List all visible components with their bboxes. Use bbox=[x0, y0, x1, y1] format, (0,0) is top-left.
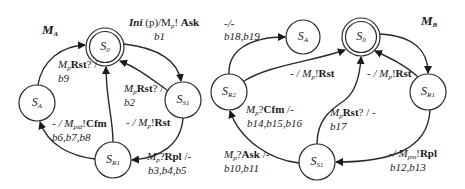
transition-label-mb-sr2-sa: -/- bbox=[224, 17, 234, 29]
state-label-mb-ss1: SS1 bbox=[299, 154, 335, 168]
state-label-mb-sa: SA bbox=[285, 29, 321, 43]
title-main: M bbox=[42, 22, 54, 37]
machine-title-ma: MA bbox=[42, 22, 58, 38]
transition-label-ma-sr1-sa: - / Mpid!Cfm bbox=[52, 117, 107, 129]
state-label-ma-s0: S0 bbox=[87, 39, 123, 53]
transition-label-ma-ss1-sr1-b: b3,b4,b5 bbox=[148, 164, 187, 176]
transition-label-ma-sa-s0-b: b9 bbox=[58, 72, 69, 84]
title-sub: A bbox=[54, 30, 59, 38]
state-label-ma-sa: SA bbox=[19, 95, 55, 109]
transition-label-ma-ini: Ini (p)/Mp! Ask bbox=[129, 16, 199, 28]
transition-label-ma-ini-b: b1 bbox=[154, 30, 165, 42]
transition-label-mb-ss1-sr2-cfm: Mp?Cfm /- bbox=[246, 103, 294, 115]
transition-label-mb-sr2-sa-b: b18,b19 bbox=[224, 30, 260, 42]
transition-label-mb-sr1-ss1-b: b12,b13 bbox=[390, 161, 426, 173]
transition-label-ma-ss1-s0-b: b2 bbox=[124, 96, 135, 108]
transition-label-mb-ss1-s0: MpRst? / - bbox=[330, 106, 376, 118]
transition-label-mb-ss1-sr2-ask: Mp?Ask /- bbox=[224, 148, 269, 160]
transition-label-ma-sa-s0: MpRst? / bbox=[58, 58, 97, 70]
transition-label-mb-sr1-s0: - / Mp!Rst bbox=[367, 67, 411, 79]
state-label-ma-sr1: SR1 bbox=[95, 152, 131, 166]
edge-ma-s0-ss1 bbox=[124, 44, 181, 81]
state-label-mb-s0: S0 bbox=[343, 29, 379, 43]
transition-label-ma-ss1-sr1: Mp?Rpl /- bbox=[147, 150, 191, 162]
machine-title-mb: MB bbox=[421, 13, 437, 29]
transition-label-mb-sr2-s0: - / Mp!Rst bbox=[290, 67, 334, 79]
transition-label-ma-sr1-s0: - / Mp!Rst bbox=[126, 116, 170, 128]
edge-ma-sr1-s0 bbox=[106, 67, 113, 142]
transition-label-mb-ss1-sr2-cfm-b: b14,b15,b16 bbox=[247, 117, 302, 129]
transition-label-mb-ss1-sr2-ask-b: b10,b11 bbox=[224, 162, 259, 174]
title-main: M bbox=[421, 13, 433, 28]
transition-label-ma-sr1-sa-b: b6,b7,b8 bbox=[52, 131, 91, 143]
transition-label-ma-ss1-s0: MpRst? / bbox=[124, 82, 163, 94]
state-label-mb-sr2: SR2 bbox=[211, 84, 247, 98]
transition-label-mb-ss1-s0-b: b17 bbox=[330, 120, 347, 132]
transition-label-mb-sr1-ss1: -/ Mpm!Rpl bbox=[389, 147, 437, 159]
state-label-mb-sr1: SR1 bbox=[410, 84, 446, 98]
state-label-ma-ss1: SS1 bbox=[165, 92, 201, 106]
title-sub: B bbox=[433, 21, 438, 29]
